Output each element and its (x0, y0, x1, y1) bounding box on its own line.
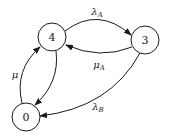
label-lambda-a: λA (90, 6, 102, 19)
edge-0-to-4 (20, 47, 40, 103)
svg-text:0: 0 (23, 111, 30, 124)
svg-text:3: 3 (142, 34, 149, 47)
label-mu-a: μA (93, 59, 105, 72)
node-0: 0 (12, 103, 40, 131)
edge-3-to-4 (66, 45, 132, 53)
edge-4-to-0 (35, 51, 57, 105)
label-lambda-b: λB (91, 101, 104, 114)
node-4: 4 (38, 23, 66, 51)
state-diagram: λA μA μ λB 4 3 0 (0, 0, 170, 140)
svg-text:4: 4 (49, 31, 56, 44)
edge-3-to-0 (40, 53, 140, 116)
label-mu: μ (12, 69, 19, 80)
edge-4-to-3 (65, 19, 131, 35)
node-3: 3 (131, 26, 159, 54)
